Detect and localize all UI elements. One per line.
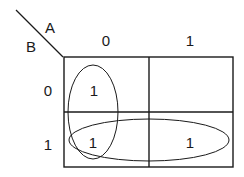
karnaugh-map: A B 0 1 0 1 1 1 1 [0, 0, 244, 177]
column-label-0: 0 [102, 32, 110, 49]
cell-b0-a0: 1 [90, 82, 98, 99]
column-label-1: 1 [186, 32, 194, 49]
column-variable-label: A [45, 19, 55, 36]
cell-b1-a0: 1 [89, 134, 97, 151]
cell-b1-a1: 1 [186, 134, 194, 151]
row-label-0: 0 [44, 82, 52, 99]
row-label-1: 1 [44, 136, 52, 153]
variable-divider-line [16, 10, 63, 57]
row-variable-label: B [26, 38, 36, 55]
